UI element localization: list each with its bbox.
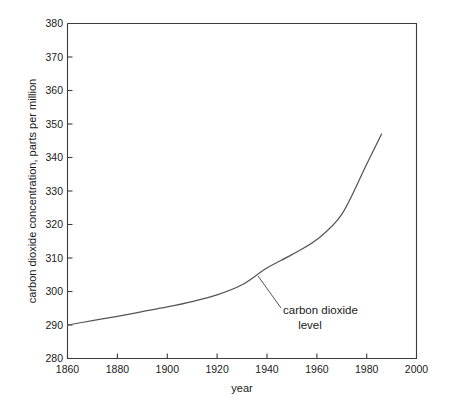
y-tick-label: 330 [45, 185, 63, 197]
chart-canvas: 280 290 300 310 320 330 340 350 360 370 … [0, 0, 453, 418]
y-tick-label: 310 [45, 252, 63, 264]
x-tick-label: 1900 [156, 363, 180, 375]
annotation-line-2: level [298, 319, 322, 331]
y-tick-label: 360 [45, 84, 63, 96]
y-tick-label: 340 [45, 151, 63, 163]
y-tick-label: 370 [45, 51, 63, 63]
x-tick-label: 2000 [405, 363, 429, 375]
co2-concentration-chart: 280 290 300 310 320 330 340 350 360 370 … [0, 0, 453, 418]
x-tick-label: 1960 [305, 363, 329, 375]
y-tick-label: 350 [45, 118, 63, 130]
x-tick-label: 1980 [355, 363, 379, 375]
annotation-line-1: carbon dioxide [283, 304, 358, 316]
y-tick-label: 300 [45, 285, 63, 297]
y-tick-label: 380 [45, 17, 63, 29]
x-tick-label: 1920 [205, 363, 229, 375]
x-tick-label: 1860 [56, 363, 80, 375]
x-tick-label: 1940 [255, 363, 279, 375]
x-tick-label: 1880 [106, 363, 130, 375]
y-axis-title: carbon dioxide concentration, parts per … [26, 79, 38, 303]
y-tick-label: 290 [45, 319, 63, 331]
x-axis-title: year [231, 382, 253, 394]
y-tick-label: 320 [45, 218, 63, 230]
